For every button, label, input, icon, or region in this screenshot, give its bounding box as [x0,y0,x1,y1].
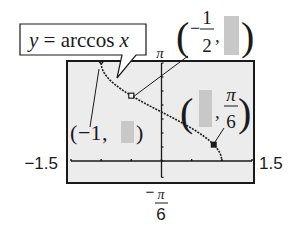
label-neg-half-denominator: 2 [202,35,212,56]
label-neg-half-sep: , [215,25,220,46]
label-pi-sixth-close: ) [238,90,251,135]
label-pi-sixth-sep: , [215,101,220,122]
function-label: y = arccos x [27,28,130,52]
hidden-answer-box [199,90,212,127]
point-pi-sixth-marker [211,142,217,148]
point-label-neg-one: ( −1 , ) [70,120,143,145]
function-label-y: y [27,28,39,52]
label-neg-half-sign: − [190,18,200,38]
hidden-answer-box [224,16,239,55]
y-min-denominator: 6 [156,205,165,224]
y-min-numerator: π [157,187,165,202]
x-max-label: 1.5 [259,154,283,173]
hidden-answer-box [121,121,134,143]
y-min-label: − π 6 [146,183,168,224]
label-pi-sixth-numerator: π [226,84,236,105]
label-neg-one-sep: , [102,120,108,145]
label-neg-one-close: ) [136,120,143,145]
function-label-func: arccos [61,28,120,52]
label-neg-half-close: ) [241,14,254,59]
label-neg-one-open: ( [70,120,77,145]
point-label-neg-half: ( − 1 2 , ) [176,7,254,59]
y-min-sign: − [146,183,155,200]
function-label-eq: = [38,28,60,52]
label-neg-one-x: −1 [78,120,101,145]
function-label-x: x [119,28,130,52]
x-min-label: −1.5 [24,154,58,173]
y-max-label: π [156,45,164,61]
label-pi-sixth-open: ( [180,90,193,135]
label-neg-half-open: ( [176,14,189,59]
point-neg-half-marker [129,93,134,98]
label-pi-sixth-denominator: 6 [226,111,236,132]
label-neg-half-numerator: 1 [202,7,212,28]
arccos-graph-figure: y = arccos x −1.5 1.5 π − π 6 ( −1 , ) (… [0,0,293,229]
